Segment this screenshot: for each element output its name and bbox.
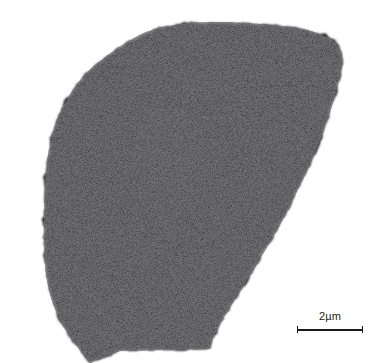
scale-bar-label: 2µm bbox=[297, 310, 363, 323]
specimen-body bbox=[0, 0, 386, 363]
specimen-image bbox=[0, 0, 386, 363]
micrograph-canvas: 2µm bbox=[0, 0, 386, 363]
